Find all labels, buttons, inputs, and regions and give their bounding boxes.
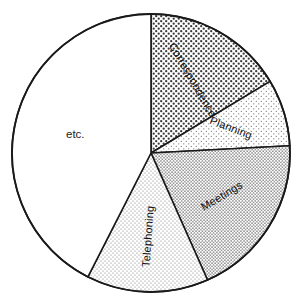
pie-label-etc: etc.: [66, 128, 85, 140]
pie-chart-svg: Correspondence Planning Meetings Telepho…: [0, 0, 301, 304]
pie-chart-container: Correspondence Planning Meetings Telepho…: [0, 0, 301, 304]
